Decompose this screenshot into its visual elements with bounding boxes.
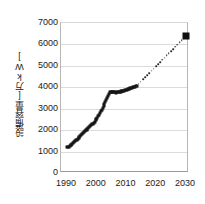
x-axis-tick-label: 2000: [86, 178, 106, 188]
projection-dot: [153, 68, 155, 70]
projection-dot: [147, 74, 149, 76]
y-axis-tick-labels: 01000200030004000500060007000: [26, 16, 58, 173]
target-point-marker: [183, 32, 190, 39]
projection-dot: [181, 39, 183, 41]
projection-dot: [140, 81, 142, 83]
projection-dot: [168, 53, 170, 55]
projection-dot: [177, 44, 179, 46]
projection-dot: [144, 76, 146, 78]
x-axis-tick-label: 2010: [115, 178, 135, 188]
projection-dot: [162, 59, 164, 61]
projection-dot: [172, 48, 174, 50]
projection-dot: [136, 85, 138, 87]
projection-dot: [138, 83, 140, 85]
gridline: [61, 109, 187, 110]
projection-dot: [174, 46, 176, 48]
projection-dot: [157, 63, 159, 65]
x-axis-tick-label: 2030: [175, 178, 195, 188]
projection-dot: [149, 72, 151, 74]
gridline: [61, 66, 187, 67]
y-axis-tick-label: 5000: [26, 60, 58, 69]
gridline: [61, 44, 187, 45]
y-axis-title: 設備容量[万kW]: [13, 40, 27, 150]
projection-dot: [159, 61, 161, 63]
y-axis-tick-label: 0: [26, 168, 58, 177]
y-axis-tick-label: 2000: [26, 125, 58, 134]
y-axis-tick-label: 3000: [26, 103, 58, 112]
projection-dot: [179, 42, 181, 44]
y-axis-tick-label: 6000: [26, 39, 58, 48]
projection-dot: [170, 50, 172, 52]
y-axis-tick-label: 4000: [26, 82, 58, 91]
chart-container: 設備容量[万kW] 01000200030004000500060007000 …: [0, 0, 205, 204]
x-axis-tick-labels: 19902000201020202030: [60, 178, 188, 192]
projection-dot: [151, 70, 153, 72]
gridline: [61, 152, 187, 153]
projection-dot: [155, 66, 157, 68]
projection-dot: [166, 55, 168, 57]
gridline: [61, 130, 187, 131]
plot-area: [60, 22, 188, 172]
y-axis-tick-label: 1000: [26, 146, 58, 155]
x-axis-tick-label: 2020: [145, 178, 165, 188]
projection-dot: [164, 57, 166, 59]
projection-dot: [142, 79, 144, 81]
x-axis-tick-label: 1990: [56, 178, 76, 188]
y-axis-tick-label: 7000: [26, 18, 58, 27]
